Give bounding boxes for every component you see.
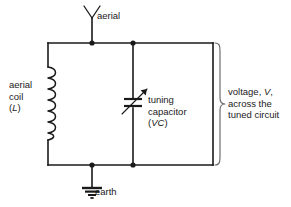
label-voltage-line3: tuned circuit <box>228 109 279 121</box>
label-voltage-line1-pre: voltage, <box>228 86 264 97</box>
label-earth: earth <box>95 186 117 198</box>
junction-dot-capacitor-bottom <box>130 162 135 167</box>
label-aerial: aerial <box>97 10 120 22</box>
label-aerial-text: aerial <box>97 10 120 21</box>
label-coil-line2: coil <box>9 91 32 103</box>
label-voltage-across-tuned-circuit: voltage, V, across the tuned circuit <box>228 86 279 121</box>
voltage-brace-icon <box>215 43 225 165</box>
variable-capacitor-icon <box>122 89 147 114</box>
label-voltage-line1-post: , <box>270 86 273 97</box>
label-coil-symbol: (L) <box>9 102 32 114</box>
circuit-diagram: aerial earth aerial coil (L) tuning capa… <box>0 0 291 207</box>
label-capacitor-line2: capacitor <box>148 106 187 118</box>
label-coil-symbol-italic: L <box>12 102 17 113</box>
junction-dot-aerial-top <box>89 40 94 45</box>
inductor-coil-icon <box>48 67 56 140</box>
label-tuning-capacitor: tuning capacitor (VC) <box>148 94 187 129</box>
label-capacitor-symbol: (VC) <box>148 117 187 129</box>
label-earth-text: earth <box>95 186 117 197</box>
label-coil-line1: aerial <box>9 79 32 91</box>
label-voltage-line2: across the <box>228 98 279 110</box>
label-voltage-line1: voltage, V, <box>228 86 279 98</box>
label-aerial-coil: aerial coil (L) <box>9 79 32 114</box>
label-capacitor-line1: tuning <box>148 94 187 106</box>
label-capacitor-symbol-italic: VC <box>151 117 164 128</box>
